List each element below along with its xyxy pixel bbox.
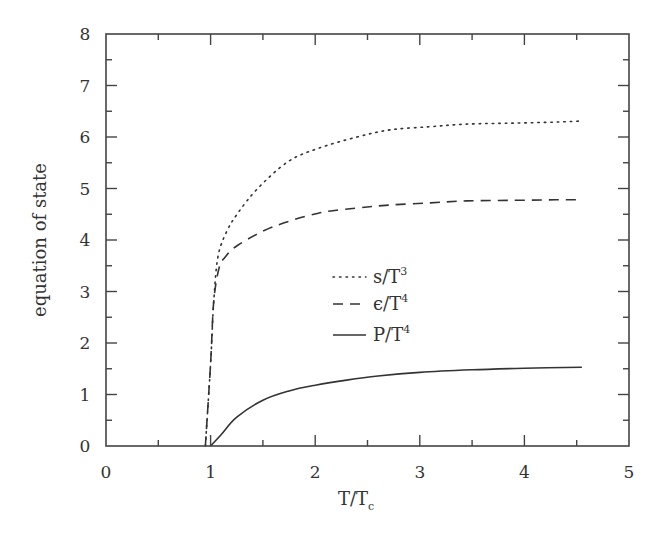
y-tick-label: 5 — [80, 179, 91, 199]
tick-labels: 012345012345678 — [80, 24, 635, 482]
y-tick-label: 8 — [80, 24, 91, 44]
x-tick-label: 2 — [310, 462, 321, 482]
y-tick-label: 6 — [80, 127, 91, 147]
y-axis-title: equation of state — [29, 163, 50, 317]
legend: s/T3 ϵ/T4 P/T4 — [333, 265, 410, 345]
curve-pressure — [211, 367, 582, 446]
x-axis-title: T/Tc — [338, 488, 374, 513]
curve-energy-density — [205, 200, 582, 446]
y-tick-label: 3 — [80, 282, 91, 302]
legend-label-energy: ϵ/T4 — [373, 292, 408, 314]
y-tick-label: 0 — [80, 436, 91, 456]
y-tick-label: 1 — [80, 385, 91, 405]
y-tick-label: 7 — [80, 76, 91, 96]
axis-ticks — [106, 34, 629, 446]
plot-frame — [106, 34, 629, 446]
y-tick-label: 4 — [80, 230, 91, 250]
legend-label-pressure: P/T4 — [373, 323, 410, 345]
y-tick-label: 2 — [80, 333, 91, 353]
x-tick-label: 1 — [205, 462, 216, 482]
x-tick-label: 0 — [101, 462, 112, 482]
x-tick-label: 3 — [414, 462, 425, 482]
x-tick-label: 5 — [624, 462, 635, 482]
legend-label-entropy: s/T3 — [373, 265, 407, 287]
equation-of-state-chart: 012345012345678 equation of state T/Tc s… — [0, 0, 657, 536]
x-tick-label: 4 — [519, 462, 530, 482]
